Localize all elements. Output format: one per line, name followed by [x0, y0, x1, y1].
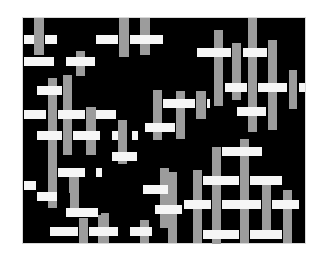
horizontal-bar	[24, 181, 36, 190]
horizontal-bar	[222, 147, 262, 156]
horizontal-bar	[203, 176, 239, 185]
horizontal-bar	[130, 35, 163, 44]
vertical-bar	[214, 30, 223, 106]
horizontal-bar	[24, 110, 46, 119]
horizontal-bar	[24, 35, 34, 44]
horizontal-bar	[250, 176, 282, 185]
horizontal-bar	[203, 230, 239, 239]
horizontal-bar	[112, 152, 137, 161]
horizontal-bar	[58, 168, 85, 177]
horizontal-bar	[73, 131, 100, 140]
horizontal-bar	[96, 35, 118, 44]
vertical-bar	[289, 70, 297, 109]
horizontal-bar	[243, 48, 267, 57]
horizontal-bar	[222, 200, 261, 209]
vertical-bar	[283, 190, 292, 243]
horizontal-bar	[143, 185, 168, 194]
vertical-bar	[79, 218, 88, 243]
vertical-bar	[34, 18, 44, 55]
horizontal-bar	[58, 110, 85, 119]
horizontal-bar	[37, 86, 62, 95]
horizontal-bar	[89, 227, 118, 236]
horizontal-bar	[112, 131, 118, 140]
horizontal-bar	[163, 99, 195, 108]
horizontal-bar	[66, 57, 95, 66]
horizontal-bar	[155, 205, 182, 214]
horizontal-bar	[299, 83, 305, 92]
horizontal-bar	[37, 192, 57, 201]
horizontal-bar	[96, 168, 102, 177]
vertical-bar	[196, 91, 206, 119]
vertical-bar	[153, 90, 162, 140]
horizontal-bar	[37, 131, 62, 140]
horizontal-bar	[207, 99, 210, 108]
horizontal-bar	[145, 123, 175, 132]
figure-description: Abstract weave pattern of white horizont…	[0, 0, 1, 1]
vertical-bar	[262, 180, 271, 230]
horizontal-bar	[237, 107, 266, 116]
horizontal-bar	[258, 83, 287, 92]
horizontal-bar	[250, 230, 282, 239]
horizontal-bar	[130, 227, 152, 236]
horizontal-bar	[225, 83, 247, 92]
horizontal-bar	[96, 110, 116, 119]
horizontal-bar	[66, 208, 98, 217]
horizontal-bar	[132, 131, 138, 140]
horizontal-bar	[50, 227, 78, 236]
horizontal-bar	[24, 57, 54, 66]
vertical-bar	[119, 18, 129, 57]
vertical-bar	[70, 175, 79, 211]
horizontal-bar	[45, 35, 57, 44]
horizontal-bar	[272, 200, 299, 209]
horizontal-bar	[197, 48, 231, 57]
horizontal-bar	[184, 200, 211, 209]
